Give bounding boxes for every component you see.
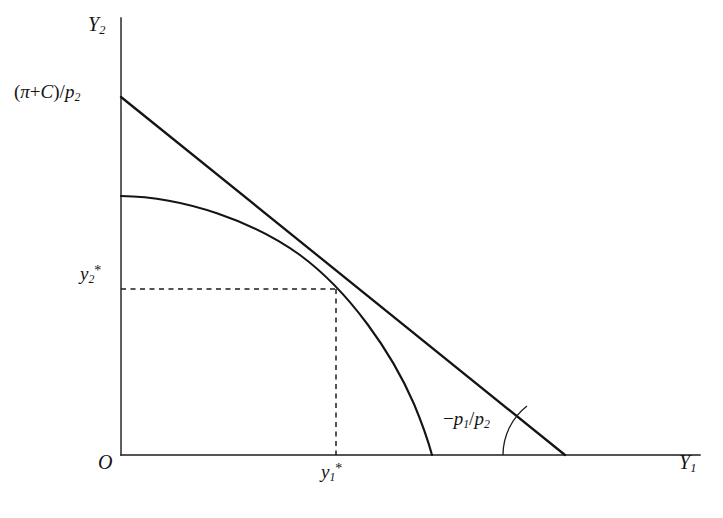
- iso-profit-line: [121, 97, 565, 455]
- optimal-y1-label: y1*: [321, 462, 342, 481]
- y-axis-label-symbol: Y: [88, 13, 99, 35]
- intercept-price-subscript: 2: [74, 91, 80, 104]
- intercept-cost: C: [41, 81, 54, 102]
- optimal-y2-label: y2*: [80, 264, 101, 283]
- origin-label: O: [98, 452, 112, 472]
- slope-numerator: p: [454, 408, 464, 429]
- slope-denominator-subscript: 2: [484, 418, 490, 431]
- optimal-y2-superscript: *: [94, 262, 101, 278]
- y-axis-label-subscript: 2: [99, 23, 105, 37]
- optimal-y1-superscript: *: [335, 460, 342, 476]
- intercept-plus: +: [30, 81, 41, 102]
- x-axis-label: Y1: [679, 452, 696, 472]
- intercept-price: p: [65, 81, 75, 102]
- slope-label: −p1/p2: [443, 409, 490, 428]
- intercept-pi: π: [20, 81, 30, 102]
- slope-denominator: p: [474, 408, 484, 429]
- figure-container: Y2 Y1 O (π+C)/p2 y2* y1* −p1/p2: [0, 0, 723, 518]
- vertical-intercept-label: (π+C)/p2: [14, 82, 80, 101]
- x-axis-label-symbol: Y: [679, 451, 690, 473]
- diagram-canvas: [0, 0, 723, 518]
- y-axis-label: Y2: [88, 14, 105, 34]
- production-possibility-frontier: [121, 196, 432, 455]
- slope-minus: −: [443, 408, 454, 429]
- x-axis-label-subscript: 1: [690, 461, 696, 475]
